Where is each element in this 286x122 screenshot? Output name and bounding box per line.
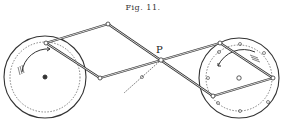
- linkage-diagram: [0, 0, 286, 122]
- left-wheel: [4, 36, 86, 118]
- right-wheel: [199, 38, 279, 118]
- clockwise-arrow-icon: [22, 49, 50, 72]
